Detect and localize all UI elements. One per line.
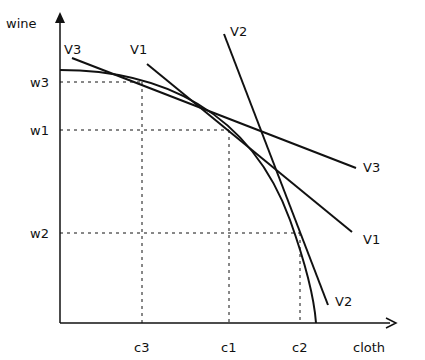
x-tick-c3: c3	[134, 340, 149, 355]
x-tick-c2: c2	[292, 340, 307, 355]
ppf-curve	[60, 70, 316, 323]
label-v3-end: V3	[363, 160, 380, 175]
label-v1-end: V1	[363, 232, 380, 247]
label-v2-end: V2	[335, 294, 352, 309]
y-tick-w1: w1	[30, 123, 49, 138]
label-v2-start: V2	[230, 24, 247, 39]
y-tick-w3: w3	[30, 75, 49, 90]
diagram-canvas: wineclothw3w1w2c3c1c2V3V3V1V1V2V2	[0, 0, 425, 360]
axes	[55, 12, 396, 328]
y-tick-w2: w2	[30, 226, 49, 241]
price-lines	[72, 34, 356, 305]
y-axis-label: wine	[6, 16, 36, 31]
y-axis-arrow-icon	[55, 12, 65, 23]
x-axis-label: cloth	[353, 340, 385, 355]
line-v2	[224, 34, 328, 305]
ppf-diagram: wineclothw3w1w2c3c1c2V3V3V1V1V2V2	[0, 0, 425, 360]
dashed-guides	[60, 82, 300, 323]
line-v3	[72, 58, 356, 168]
label-v3-start: V3	[64, 42, 81, 57]
line-v1	[147, 64, 352, 232]
x-tick-c1: c1	[221, 340, 236, 355]
label-v1-start: V1	[130, 42, 147, 57]
